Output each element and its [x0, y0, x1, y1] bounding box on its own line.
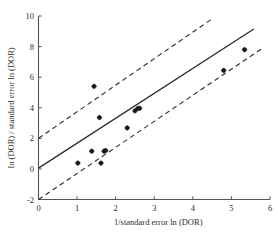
y-axis-tick-label: -2	[27, 195, 34, 205]
axes-group	[39, 16, 271, 200]
x-axis-tick-label: 6	[268, 203, 272, 213]
trend-lines-group	[39, 18, 262, 199]
y-axis-tick-label: 8	[30, 42, 34, 52]
x-axis-tick-label: 5	[229, 203, 233, 213]
x-axis-tick-label: 1	[75, 203, 79, 213]
x-axis-tick-label: 2	[114, 203, 118, 213]
data-points-group	[75, 47, 247, 166]
data-point	[242, 47, 247, 52]
regression-line	[39, 29, 254, 168]
y-axis-tick-label: 10	[26, 11, 35, 21]
data-point	[221, 68, 226, 73]
y-axis-tick-label: 6	[30, 72, 34, 82]
y-axis-tick-label: 4	[30, 103, 35, 113]
y-axis-tick-label: 2	[30, 133, 34, 143]
x-axis-title: 1/standard error ln (DOR)	[114, 217, 203, 227]
galbraith-plot-figure: -2024681001234561/standard error ln (DOR…	[0, 0, 278, 238]
chart-canvas: -2024681001234561/standard error ln (DOR…	[0, 0, 278, 238]
upper-confidence-line	[39, 18, 213, 138]
data-point	[97, 115, 102, 120]
data-point	[91, 84, 96, 89]
x-axis-tick-label: 3	[152, 203, 156, 213]
y-axis-tick-label: 0	[30, 164, 34, 174]
data-point	[75, 161, 80, 166]
x-axis-tick-label: 0	[36, 203, 40, 213]
data-point	[125, 125, 130, 130]
lower-confidence-line	[39, 49, 262, 200]
x-axis-tick-label: 4	[191, 203, 196, 213]
data-point	[89, 149, 94, 154]
data-point	[98, 161, 103, 166]
y-axis-title: ln (DOR) / standard error ln (DOR)	[6, 47, 16, 168]
